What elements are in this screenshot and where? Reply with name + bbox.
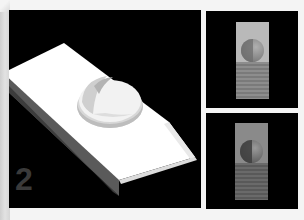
sphere <box>240 140 263 163</box>
thumbnail-top <box>206 11 298 108</box>
sphere <box>241 39 264 62</box>
main-render-panel: 2 <box>9 10 201 208</box>
swatch-striped-base <box>235 163 268 200</box>
wedge-dome-render <box>9 10 201 208</box>
step-number-label: 2 <box>15 163 33 195</box>
texture-swatch <box>235 123 268 200</box>
swatch-striped-base <box>236 62 269 99</box>
texture-swatch <box>236 22 269 99</box>
thumbnail-bottom <box>206 113 298 209</box>
